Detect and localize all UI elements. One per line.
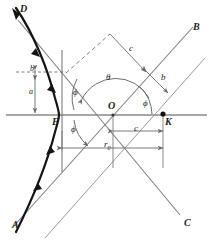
label-dimension-c-diagonal: c xyxy=(129,44,133,53)
vertical-construction-lines xyxy=(62,50,163,172)
label-angle-phi-right: ϕ xyxy=(143,99,148,108)
label-asymptote-c: C xyxy=(184,218,191,228)
figure-canvas: D A B C O E K θ ϕ ϕ ϕ b a c b c r0 xyxy=(0,0,213,243)
label-point-e: E xyxy=(52,117,59,127)
label-point-k: K xyxy=(165,117,172,127)
label-dimension-a-left: a xyxy=(29,88,33,96)
label-angle-phi-upper-left: ϕ xyxy=(73,88,78,97)
label-dimension-b-diagonal: b xyxy=(161,73,166,82)
c-diagonal-dimension xyxy=(110,34,146,72)
diagram-svg xyxy=(0,0,213,243)
center-point-marker xyxy=(111,113,114,116)
label-asymptote-b: B xyxy=(193,22,200,32)
label-point-o: O xyxy=(108,101,115,111)
label-angle-phi-lower-left: ϕ xyxy=(71,125,76,134)
label-r0-subscript: 0 xyxy=(108,145,111,151)
trajectory-arrowheads xyxy=(12,8,56,191)
asymptote-d-c xyxy=(18,20,180,215)
label-dimension-c-horizontal: c xyxy=(134,124,138,133)
label-angle-theta: θ xyxy=(106,73,110,82)
label-asymptote-a: A xyxy=(12,220,19,230)
label-asymptote-d: D xyxy=(20,4,27,14)
label-dimension-b-left: b xyxy=(30,65,34,73)
label-dimension-r0: r0 xyxy=(104,140,111,151)
angle-arcs xyxy=(72,78,152,146)
